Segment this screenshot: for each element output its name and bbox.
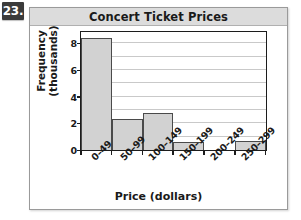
y-tick-label: 0 (63, 146, 77, 155)
chart-title: Concert Ticket Prices (30, 8, 287, 26)
y-tick-label: 8 (63, 39, 77, 48)
exercise-number-badge: 23. (2, 2, 24, 20)
chart-title-bar: Concert Ticket Prices (30, 8, 287, 26)
y-tick-label: 2 (63, 119, 77, 128)
bar-0-49 (81, 38, 112, 150)
y-tick-label: 6 (63, 66, 77, 75)
y-axis-title-line-2: (thousands) (47, 6, 59, 116)
y-axis-title-line-1: Frequency (35, 6, 47, 116)
y-tick-label: 4 (63, 93, 77, 102)
y-axis-tick-labels: 0 2 4 6 8 (60, 31, 77, 151)
figure-panel: Concert Ticket Prices Frequency (thousan… (29, 7, 288, 210)
x-axis-title: Price (dollars) (30, 190, 287, 203)
